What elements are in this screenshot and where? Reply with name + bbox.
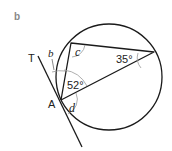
angle-b-arc [52, 71, 65, 72]
angle-c-label: c [75, 45, 81, 59]
circle-theorem-diagram: b T A b c d 52° 35° [0, 0, 172, 151]
angle-52-label: 52° [67, 79, 84, 91]
angle-b-pointer [52, 59, 54, 70]
tangent-line [38, 56, 82, 147]
angle-35-label: 35° [116, 53, 133, 65]
angle-b-label: b [48, 47, 54, 59]
angle-d-label: d [69, 101, 76, 115]
part-label: b [14, 11, 20, 22]
point-a-label: A [48, 98, 56, 110]
point-t-label: T [28, 52, 35, 64]
